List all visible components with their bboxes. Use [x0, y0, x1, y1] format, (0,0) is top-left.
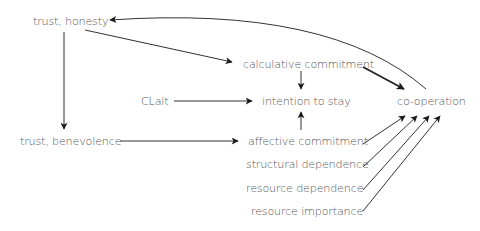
edge-resource-dependence-to-cooperation — [363, 116, 429, 190]
node-structural-dependence: structural dependence — [246, 158, 369, 171]
node-resource-dependence: resource dependence — [246, 182, 364, 195]
node-intention-to-stay: intention to stay — [262, 95, 351, 108]
node-calculative-commitment: calculative commitment — [243, 58, 374, 71]
node-clalt: CLalt — [141, 95, 168, 108]
relationship-diagram: trust, honesty trust, benevolence CLalt … — [0, 0, 480, 231]
node-trust-honesty: trust, honesty — [33, 15, 109, 28]
node-trust-benevolence: trust, benevolence — [20, 135, 122, 148]
node-co-operation: co-operation — [397, 95, 466, 108]
edge-trust-honesty-to-calculative-commitment — [85, 30, 232, 62]
node-resource-importance: resource importance — [251, 205, 363, 218]
node-affective-commitment: affective commitment — [248, 135, 368, 148]
edge-affective-commitment-to-cooperation — [363, 116, 405, 144]
nodes: trust, honesty trust, benevolence CLalt … — [20, 15, 466, 218]
edge-cooperation-to-trust-honesty — [110, 18, 426, 89]
